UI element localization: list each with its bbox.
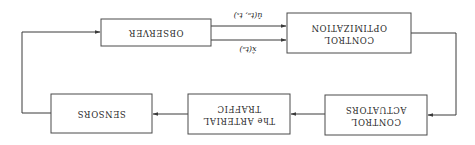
block-observer: OBSERVER [101,19,211,46]
arterial-traffic-label-line2: TRAFFIC [217,104,261,114]
control-optimization-label-line2: OPTIMIZATION [311,23,387,33]
signal-label-u-hat: û(tₒ, tₓ) [234,11,263,20]
feedback-control-diagram: OBSERVER CONTROL OPTIMIZATION SENSORS Th… [0,0,475,145]
block-arterial-traffic: The ARTERIAL TRAFFIC [188,94,290,134]
arterial-traffic-label-line1: The ARTERIAL [203,116,275,126]
signal-label-x-hat: x̂(tₒ) [239,45,256,54]
sensors-label: SENSORS [77,109,126,119]
block-sensors: SENSORS [51,94,152,133]
control-actuators-label-line1: CONTROL [351,117,401,127]
control-optimization-label-line1: CONTROL [324,35,374,45]
block-control-actuators: CONTROL ACTUATORS [325,95,427,135]
control-actuators-label-line2: ACTUATORS [345,105,407,115]
block-control-optimization: CONTROL OPTIMIZATION [287,13,411,53]
observer-label: OBSERVER [129,28,184,38]
